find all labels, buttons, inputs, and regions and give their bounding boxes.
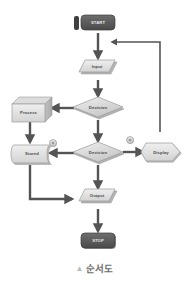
diagram-caption: ▲순서도 bbox=[0, 258, 189, 276]
decision2-label: Decision bbox=[89, 150, 108, 155]
start-label: START bbox=[91, 20, 105, 25]
decision1-label: Decision bbox=[89, 105, 108, 110]
stop-label: STOP bbox=[92, 238, 104, 243]
caption-triangle-icon: ▲ bbox=[76, 264, 84, 273]
node-display[interactable]: Display bbox=[141, 143, 181, 162]
node-process[interactable]: Process bbox=[12, 97, 52, 122]
stored-label: Stored bbox=[25, 151, 39, 156]
connector-circle-right[interactable] bbox=[127, 137, 134, 144]
output-label: Output bbox=[90, 193, 105, 198]
node-input[interactable]: Input bbox=[79, 60, 117, 74]
node-stop[interactable]: STOP bbox=[81, 233, 116, 249]
flowchart-canvas: START Input Decision Process Stored bbox=[0, 0, 189, 291]
process-label: Process bbox=[20, 110, 38, 115]
caption-label: 순서도 bbox=[86, 263, 114, 274]
display-label: Display bbox=[153, 150, 169, 155]
start-shadow bbox=[74, 16, 79, 30]
edge-stored-output bbox=[30, 165, 72, 199]
flowchart-diagram: START Input Decision Process Stored bbox=[0, 0, 189, 291]
edge-display-to-input bbox=[112, 42, 160, 132]
node-stored[interactable]: Stored bbox=[11, 145, 52, 165]
connector-left-dot bbox=[52, 142, 55, 145]
node-start[interactable]: START bbox=[74, 15, 115, 30]
input-label: Input bbox=[92, 64, 103, 69]
node-decision1[interactable]: Decision bbox=[73, 97, 124, 119]
node-decision2[interactable]: Decision bbox=[73, 142, 124, 164]
connector-circle-left[interactable] bbox=[50, 140, 57, 147]
node-output[interactable]: Output bbox=[79, 189, 117, 203]
connector-right-dot bbox=[129, 139, 132, 142]
